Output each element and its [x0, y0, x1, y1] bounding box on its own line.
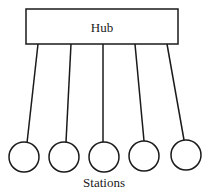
station-node-4 [129, 141, 159, 171]
star-topology-diagram: Hub Stations [0, 0, 209, 195]
station-node-1 [9, 142, 39, 172]
link-line-1 [27, 44, 38, 143]
stations-label: Stations [83, 175, 125, 190]
link-line-5 [167, 44, 184, 140]
station-node-2 [49, 142, 79, 172]
link-line-4 [135, 44, 144, 141]
stations-group [9, 140, 201, 172]
station-node-5 [171, 140, 201, 170]
hub-station-links [27, 44, 184, 143]
link-line-2 [66, 44, 71, 142]
hub-label: Hub [91, 20, 113, 35]
station-node-3 [89, 142, 119, 172]
